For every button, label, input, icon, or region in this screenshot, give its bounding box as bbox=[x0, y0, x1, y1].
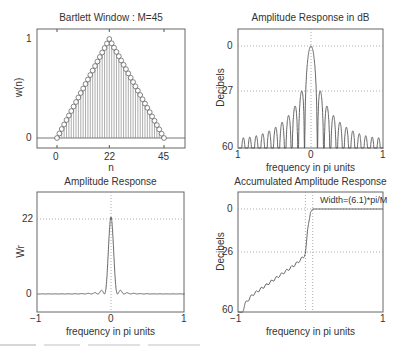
title-amplitude-db: Amplitude Response in dB bbox=[238, 12, 383, 23]
ytick-0acc: 0 bbox=[227, 203, 233, 214]
stem-marker bbox=[102, 46, 107, 51]
ylabel-bartlett: w(n) bbox=[13, 68, 24, 108]
ytick-22: 22 bbox=[22, 213, 33, 224]
stem-marker bbox=[74, 100, 79, 105]
xtick-m1: −1 bbox=[30, 313, 41, 324]
stem-marker bbox=[57, 131, 62, 136]
stem-marker bbox=[88, 73, 93, 78]
stem-marker bbox=[64, 118, 69, 123]
stem-marker bbox=[83, 82, 88, 87]
ytick-0: 0 bbox=[26, 132, 32, 143]
xtick-m1acc: −1 bbox=[230, 313, 241, 324]
stem-marker bbox=[69, 109, 74, 114]
ytick-60db: 60 bbox=[222, 141, 233, 152]
stem-marker bbox=[78, 91, 83, 96]
stem-marker bbox=[100, 50, 105, 55]
ytick-27db: 27 bbox=[222, 85, 233, 96]
db-response-curve bbox=[239, 46, 384, 148]
xtick-22: 22 bbox=[104, 151, 115, 162]
stem-marker bbox=[76, 95, 81, 100]
caption-fragment bbox=[0, 340, 200, 348]
title-amplitude: Amplitude Response bbox=[37, 176, 184, 187]
stem-marker bbox=[59, 127, 64, 132]
stem-marker bbox=[81, 86, 86, 91]
xtick-right: 1 bbox=[380, 149, 386, 160]
xlabel-bartlett: n bbox=[37, 162, 185, 173]
stem-marker bbox=[71, 104, 76, 109]
title-accumulated: Accumulated Amplitude Response bbox=[228, 176, 393, 187]
ytick-0db: 0 bbox=[227, 40, 233, 51]
ytick-1: 1 bbox=[26, 33, 32, 44]
stem-marker bbox=[66, 113, 71, 118]
stem-marker bbox=[105, 41, 110, 46]
stem-marker bbox=[95, 59, 100, 64]
xlabel-accumulated: frequency in pi units bbox=[238, 326, 383, 337]
stem-marker bbox=[86, 77, 91, 82]
xlabel-amplitude-db: frequency in pi units bbox=[238, 162, 383, 173]
stem-marker bbox=[97, 55, 102, 60]
xtick-0b: 0 bbox=[108, 313, 114, 324]
ytick-26acc: 26 bbox=[222, 246, 233, 257]
xtick-mid: 0 bbox=[308, 149, 314, 160]
axes-bartlett bbox=[37, 29, 185, 148]
ytick-0b: 0 bbox=[26, 288, 32, 299]
xtick-45: 45 bbox=[158, 151, 169, 162]
accumulated-curve bbox=[238, 209, 383, 312]
xtick-0: 0 bbox=[53, 151, 59, 162]
stem-marker bbox=[162, 136, 167, 141]
xlabel-amplitude: frequency in pi units bbox=[37, 326, 184, 337]
xtick-1acc: 1 bbox=[380, 313, 386, 324]
width-annotation: Width=(6.1)*pi/M bbox=[320, 195, 387, 205]
stem-marker bbox=[62, 122, 67, 127]
ylabel-amplitude: Wr bbox=[15, 232, 26, 272]
xtick-1b: 1 bbox=[181, 313, 187, 324]
figure bbox=[0, 0, 398, 348]
xtick-left: 1 bbox=[235, 149, 241, 160]
title-bartlett: Bartlett Window : M=45 bbox=[37, 12, 185, 23]
stem-marker bbox=[93, 64, 98, 69]
stem-marker bbox=[90, 68, 95, 73]
stem-marker bbox=[55, 136, 60, 141]
